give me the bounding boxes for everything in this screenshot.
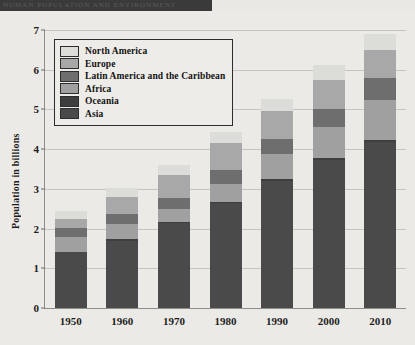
legend-item-label: Latin America and the Caribbean [85, 71, 225, 81]
legend-item-label: North America [85, 46, 147, 56]
bar-1950[interactable] [55, 211, 87, 308]
y-axis-tick-mark [41, 268, 45, 269]
y-axis-tick-label: 7 [34, 24, 40, 36]
bar-segment[interactable] [55, 211, 87, 219]
bar-segment[interactable] [210, 184, 242, 202]
legend-item[interactable]: Oceania [60, 95, 225, 108]
y-axis-tick-label: 6 [34, 64, 40, 76]
bar-segment[interactable] [261, 139, 293, 154]
bar-segment[interactable] [261, 154, 293, 179]
bar-segment[interactable] [364, 78, 396, 99]
bar-segment[interactable] [106, 224, 138, 239]
stacked-bar-chart: Population in billions 01234567 19501960… [0, 11, 415, 345]
y-axis-tick-label: 0 [34, 302, 40, 314]
bar-segment[interactable] [313, 160, 345, 308]
legend-item-label: Asia [85, 109, 103, 119]
bar-segment[interactable] [364, 34, 396, 49]
bar-segment[interactable] [55, 219, 87, 228]
y-axis-tick-label: 3 [34, 183, 40, 195]
bar-segment[interactable] [261, 181, 293, 308]
y-axis-tick-mark [41, 188, 45, 189]
y-axis-tick-mark [41, 30, 45, 31]
y-axis-tick-mark [41, 109, 45, 110]
y-axis-tick-mark [41, 228, 45, 229]
bar-segment[interactable] [158, 198, 190, 209]
bar-1990[interactable] [261, 99, 293, 308]
x-axis-tick-label: 2010 [352, 315, 408, 327]
banner-title: HUMAN POPULATION AND ENVIRONMENT [0, 0, 212, 11]
gridline [45, 30, 406, 31]
y-axis-tick-label: 2 [34, 223, 40, 235]
legend-swatch-icon [60, 58, 79, 69]
legend-item-label: Europe [85, 59, 116, 69]
legend-swatch-icon [60, 83, 79, 94]
bar-segment[interactable] [313, 65, 345, 80]
bar-segment[interactable] [210, 203, 242, 308]
bar-segment[interactable] [313, 127, 345, 158]
bar-segment[interactable] [261, 99, 293, 111]
bar-segment[interactable] [158, 223, 190, 308]
bar-segment[interactable] [364, 142, 396, 308]
bar-segment[interactable] [106, 188, 138, 197]
x-axis-tick-label: 1950 [43, 315, 99, 327]
bar-2010[interactable] [364, 34, 396, 308]
bar-segment[interactable] [55, 252, 87, 308]
bar-segment[interactable] [158, 165, 190, 175]
legend-item-label: Oceania [85, 96, 119, 106]
bar-segment[interactable] [158, 209, 190, 222]
bar-segment[interactable] [313, 109, 345, 127]
legend-swatch-icon [60, 96, 79, 107]
legend-item[interactable]: North America [60, 45, 225, 58]
y-axis-tick-label: 1 [34, 262, 40, 274]
bar-segment[interactable] [106, 214, 138, 224]
x-axis-tick-label: 1960 [94, 315, 150, 327]
y-axis-title: Population in billions [8, 111, 22, 251]
y-axis-tick-mark [41, 308, 45, 309]
legend-item-label: Africa [85, 84, 111, 94]
x-axis-tick-label: 1980 [198, 315, 254, 327]
bar-1960[interactable] [106, 188, 138, 308]
bar-segment[interactable] [364, 50, 396, 79]
bar-segment[interactable] [106, 197, 138, 214]
y-axis-tick-label: 5 [34, 103, 40, 115]
bar-2000[interactable] [313, 65, 345, 308]
bar-segment[interactable] [210, 170, 242, 184]
bar-segment[interactable] [55, 237, 87, 251]
x-axis-tick-label: 1990 [249, 315, 305, 327]
bar-segment[interactable] [210, 132, 242, 143]
bar-1970[interactable] [158, 165, 190, 308]
bar-segment[interactable] [55, 228, 87, 238]
bar-segment[interactable] [158, 175, 190, 198]
y-axis-tick-mark [41, 149, 45, 150]
legend-swatch-icon [60, 108, 79, 119]
y-axis-tick-mark [41, 69, 45, 70]
y-axis-tick-label: 4 [34, 143, 40, 155]
x-axis-tick-label: 2000 [301, 315, 357, 327]
legend-item[interactable]: Asia [60, 108, 225, 121]
legend-item[interactable]: Africa [60, 83, 225, 96]
legend-item[interactable]: Latin America and the Caribbean [60, 70, 225, 83]
bar-1980[interactable] [210, 132, 242, 308]
legend-swatch-icon [60, 71, 79, 82]
legend-item[interactable]: Europe [60, 58, 225, 71]
bar-segment[interactable] [261, 111, 293, 140]
page-header-banner: HUMAN POPULATION AND ENVIRONMENT [0, 0, 212, 11]
bar-segment[interactable] [364, 100, 396, 141]
x-axis-tick-label: 1970 [146, 315, 202, 327]
bar-segment[interactable] [106, 241, 138, 309]
bar-segment[interactable] [313, 80, 345, 109]
legend-swatch-icon [60, 46, 79, 57]
bar-segment[interactable] [210, 143, 242, 170]
chart-legend: North AmericaEuropeLatin America and the… [54, 39, 233, 126]
